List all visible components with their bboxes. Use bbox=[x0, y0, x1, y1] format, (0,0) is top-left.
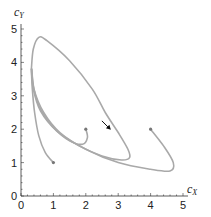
y-tick-label: 1 bbox=[11, 157, 17, 169]
start-point-marker bbox=[149, 128, 152, 131]
y-axis-label: cY bbox=[14, 5, 25, 20]
x-tick-label: 4 bbox=[148, 199, 154, 211]
y-tick-label: 5 bbox=[11, 23, 17, 35]
x-tick-label: 5 bbox=[180, 199, 186, 211]
y-tick-label: 4 bbox=[11, 56, 17, 68]
trajectories bbox=[31, 37, 173, 172]
y-ticks: 012345 bbox=[11, 23, 24, 202]
x-tick-label: 0 bbox=[18, 199, 24, 211]
x-tick-label: 1 bbox=[50, 199, 56, 211]
y-tick-label: 2 bbox=[11, 123, 17, 135]
trajectory-curve bbox=[31, 37, 130, 160]
direction-arrow-icon bbox=[102, 121, 111, 130]
trajectory-curve bbox=[31, 69, 53, 163]
start-markers bbox=[52, 128, 152, 165]
y-tick-label: 3 bbox=[11, 90, 17, 102]
x-axis-label: cX bbox=[187, 182, 198, 197]
phase-portrait-chart: 012345 012345 cX cY bbox=[0, 0, 211, 217]
x-tick-label: 3 bbox=[115, 199, 121, 211]
start-point-marker bbox=[84, 128, 87, 131]
axes: 012345 012345 bbox=[11, 23, 188, 211]
start-point-marker bbox=[52, 161, 55, 164]
y-tick-label: 0 bbox=[11, 190, 17, 202]
x-tick-label: 2 bbox=[83, 199, 89, 211]
